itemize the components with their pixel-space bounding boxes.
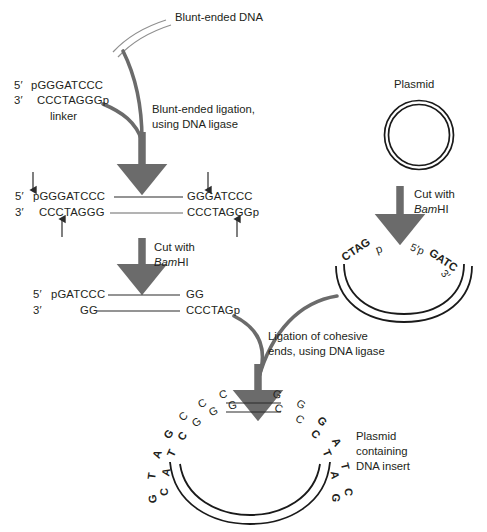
enzyme-bam-italic: Bam xyxy=(154,256,177,268)
ligated-duplex-lines xyxy=(110,197,183,213)
base-left-outer-0: G xyxy=(145,494,158,504)
cut-product-five-prime-tag: 5′ xyxy=(33,288,42,301)
ligated-right-bottom-sequence: CCCTAGGGp xyxy=(187,206,259,219)
caption-cut-bamhi-enzyme: BamHI xyxy=(154,256,189,269)
caption-cut-bamhi-line1: Cut with xyxy=(154,241,195,254)
caption-product-line2: containing xyxy=(356,445,408,458)
caption-cut-plasmid-line1: Cut with xyxy=(414,188,455,201)
caption-cohesive-ligation-line1: Ligation of cohesive xyxy=(268,330,368,343)
linker-five-prime-sequence: pGGGATCCC xyxy=(31,79,103,92)
label-blunt-ended-dna: Blunt-ended DNA xyxy=(175,11,263,24)
label-linker: linker xyxy=(50,110,77,123)
label-plasmid: Plasmid xyxy=(394,78,434,91)
caption-product-line3: DNA insert xyxy=(356,460,410,473)
linker-three-prime-tag: 3′ xyxy=(14,94,23,107)
ligated-left-bottom-sequence: CCCTAGGG xyxy=(39,206,105,219)
plasmid-circle xyxy=(385,101,454,170)
cut-product-left-bottom-sequence: GG xyxy=(80,304,98,317)
ligated-five-prime-tag: 5′ xyxy=(15,190,24,203)
cut-product-three-prime-tag: 3′ xyxy=(33,304,42,317)
caption-cohesive-ligation-line2: ends, using DNA ligase xyxy=(268,345,385,358)
ligated-left-top-sequence: pGGGATCCC xyxy=(33,190,105,203)
enzyme-hi-plasmid: HI xyxy=(437,203,448,215)
ligated-right-top-sequence: GGGATCCC xyxy=(187,190,253,203)
linker-three-prime-sequence: CCCTAGGGp xyxy=(37,94,109,107)
figure-canvas: Blunt-ended DNA Plasmid 5′ pGGGATCCC 3′ … xyxy=(0,0,487,532)
caption-product-line1: Plasmid xyxy=(356,430,396,443)
base-right-inner-5: G xyxy=(329,493,342,503)
cut-product-left-top-sequence: pGATCCC xyxy=(51,288,105,301)
linker-five-prime-tag: 5′ xyxy=(14,79,23,92)
enzyme-bam-italic-plasmid: Bam xyxy=(414,203,437,215)
caption-blunt-ligation-line2: using DNA ligase xyxy=(152,118,238,131)
cut-product-lines xyxy=(97,295,180,311)
caption-cut-plasmid-enzyme: BamHI xyxy=(414,203,449,216)
cut-product-right-top-sequence: GG xyxy=(186,288,204,301)
recombinant-plasmid-arcs xyxy=(170,462,330,524)
enzyme-hi: HI xyxy=(177,256,188,268)
ligation-curve-linker xyxy=(103,104,142,141)
caption-blunt-ligation-line1: Blunt-ended ligation, xyxy=(152,103,255,116)
ligation-curve-dna xyxy=(123,51,142,140)
base-right-outer-5: C xyxy=(343,488,355,496)
cut-site-arrows-ligated xyxy=(33,172,237,237)
base-left-inner-0: C xyxy=(158,488,170,496)
ligated-three-prime-tag: 3′ xyxy=(15,206,24,219)
cut-product-right-bottom-sequence: CCCTAGp xyxy=(186,304,240,317)
